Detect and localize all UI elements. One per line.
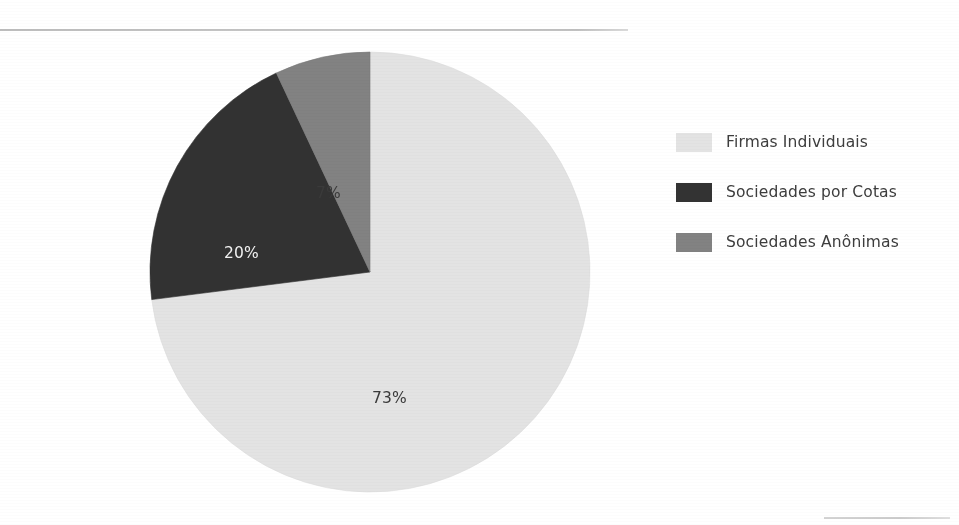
legend-swatch-icon	[676, 183, 712, 202]
legend-swatch-icon	[676, 233, 712, 252]
pie-chart-figure: 73% 20% 7%	[0, 40, 660, 510]
pie-chart-graphic: 73% 20% 7%	[150, 52, 590, 493]
chart-legend: Firmas Individuais Sociedades por Cotas …	[676, 130, 946, 254]
bottom-horizontal-rule	[824, 517, 950, 519]
legend-item-label: Sociedades Anônimas	[726, 233, 899, 251]
legend-swatch-icon	[676, 133, 712, 152]
legend-item-label: Sociedades por Cotas	[726, 183, 897, 201]
pie-data-label-sociedades-por-cotas: 20%	[224, 244, 259, 262]
pie-data-label-sociedades-anonimas: 7%	[316, 184, 341, 202]
legend-item-sociedades-por-cotas[interactable]: Sociedades por Cotas	[676, 180, 946, 204]
legend-item-label: Firmas Individuais	[726, 133, 868, 151]
legend-item-firmas-individuais[interactable]: Firmas Individuais	[676, 130, 946, 154]
pie-data-label-firmas-individuais: 73%	[372, 389, 407, 407]
legend-item-sociedades-anonimas[interactable]: Sociedades Anônimas	[676, 230, 946, 254]
pie-svg	[150, 52, 590, 493]
top-horizontal-rule	[0, 29, 628, 31]
